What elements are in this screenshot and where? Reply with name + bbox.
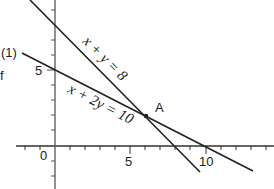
x-tick-10-label: 10 — [199, 154, 213, 169]
margin-letter: f — [0, 68, 4, 83]
margin-ref-label: (1) — [1, 45, 17, 60]
equation-2-label: x + 2y = 10 — [65, 80, 137, 127]
origin-label: 0 — [40, 148, 47, 163]
y-tick-5-label: 5 — [35, 63, 42, 78]
x-tick-5-label: 5 — [125, 154, 132, 169]
point-a-label: A — [155, 100, 164, 115]
graph-canvas: A 0 5 10 5 (1) f x + y = 8 x + 2y = 10 — [0, 0, 274, 189]
line-x-plus-2y-eq-10 — [22, 53, 253, 171]
y-ticks — [47, 10, 55, 176]
x-ticks — [25, 146, 266, 154]
point-a-marker — [144, 114, 149, 119]
graph-figure: A 0 5 10 5 (1) f x + y = 8 x + 2y = 10 — [0, 0, 274, 189]
